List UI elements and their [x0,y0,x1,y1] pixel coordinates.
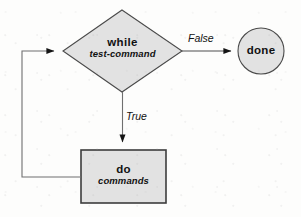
process-label: do commands [81,163,166,186]
decision-keyword: while [63,36,182,48]
true-branch-label: True [126,110,147,122]
flowchart-figure: while test-command done do commands Fals… [0,0,301,217]
terminal-keyword: done [238,44,284,56]
terminal-label: done [238,44,284,56]
decision-argument: test-command [63,49,182,59]
process-keyword: do [81,163,166,175]
decision-label: while test-command [63,36,182,59]
false-branch-label: False [188,32,214,44]
loop-back-connector [22,51,81,177]
process-argument: commands [81,176,166,186]
